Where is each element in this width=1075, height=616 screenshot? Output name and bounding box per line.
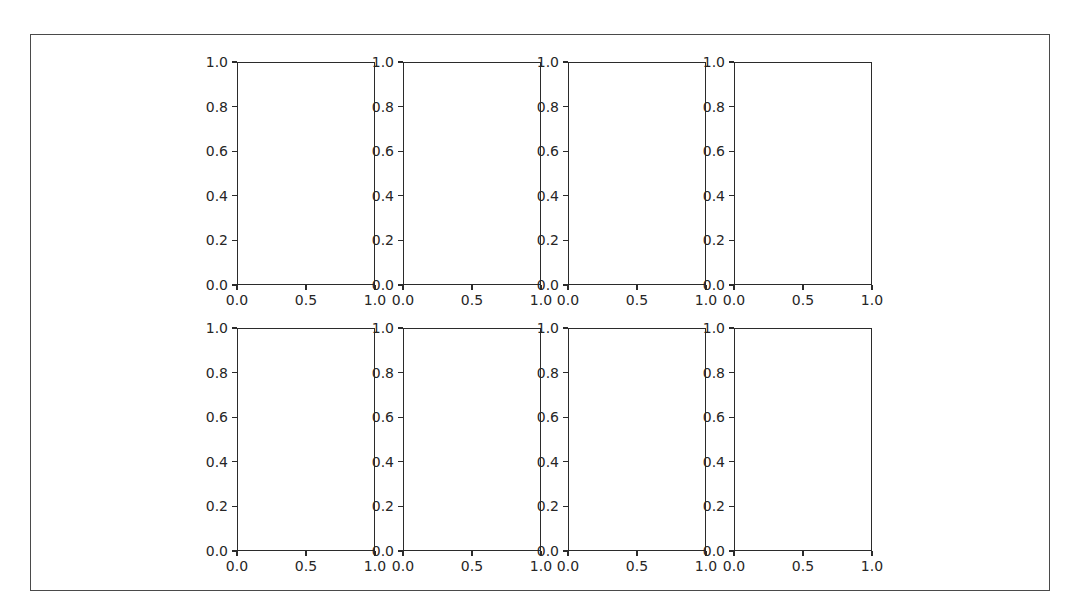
y-tick-mark — [398, 195, 403, 196]
subplot-axes — [237, 62, 375, 285]
y-tick-mark — [563, 327, 568, 328]
y-tick-label: 0.6 — [685, 144, 725, 158]
y-tick-label: 0.6 — [188, 144, 228, 158]
y-tick-label: 0.8 — [354, 100, 394, 114]
y-tick-label: 0.4 — [354, 189, 394, 203]
y-tick-mark — [232, 106, 237, 107]
y-tick-mark — [563, 151, 568, 152]
x-tick-mark — [567, 285, 568, 290]
x-tick-label: 0.0 — [217, 559, 257, 573]
x-tick-label: 0.0 — [548, 293, 588, 307]
y-tick-label: 0.8 — [519, 100, 559, 114]
y-tick-mark — [398, 506, 403, 507]
y-tick-label: 0.2 — [188, 499, 228, 513]
y-tick-mark — [232, 461, 237, 462]
y-tick-label: 1.0 — [685, 55, 725, 69]
x-tick-mark — [636, 285, 637, 290]
x-tick-label: 0.5 — [286, 293, 326, 307]
y-tick-label: 0.4 — [188, 455, 228, 469]
subplot-axes — [237, 328, 375, 551]
x-tick-mark — [402, 285, 403, 290]
x-tick-label: 1.0 — [852, 559, 892, 573]
x-tick-label: 0.0 — [383, 559, 423, 573]
y-tick-mark — [398, 417, 403, 418]
x-tick-mark — [733, 551, 734, 556]
x-tick-mark — [236, 551, 237, 556]
y-tick-mark — [729, 195, 734, 196]
y-tick-mark — [563, 61, 568, 62]
y-tick-label: 0.2 — [188, 233, 228, 247]
x-tick-mark — [402, 551, 403, 556]
x-tick-label: 0.0 — [714, 559, 754, 573]
y-tick-label: 0.0 — [685, 278, 725, 292]
y-tick-mark — [232, 61, 237, 62]
x-tick-label: 0.5 — [617, 293, 657, 307]
y-tick-mark — [398, 106, 403, 107]
y-tick-mark — [398, 240, 403, 241]
y-tick-label: 0.8 — [685, 100, 725, 114]
x-tick-mark — [236, 285, 237, 290]
y-tick-mark — [729, 506, 734, 507]
y-tick-label: 1.0 — [519, 321, 559, 335]
y-tick-label: 0.6 — [519, 144, 559, 158]
x-tick-label: 0.0 — [217, 293, 257, 307]
y-tick-mark — [232, 417, 237, 418]
y-tick-mark — [398, 327, 403, 328]
x-tick-label: 0.5 — [783, 293, 823, 307]
x-tick-mark — [471, 551, 472, 556]
subplot-axes — [403, 62, 541, 285]
y-tick-label: 0.2 — [354, 233, 394, 247]
y-tick-label: 0.0 — [354, 278, 394, 292]
y-tick-mark — [563, 417, 568, 418]
x-tick-mark — [871, 285, 872, 290]
y-tick-mark — [729, 327, 734, 328]
y-tick-mark — [563, 240, 568, 241]
y-tick-label: 0.2 — [685, 499, 725, 513]
y-tick-mark — [232, 372, 237, 373]
y-tick-label: 1.0 — [354, 321, 394, 335]
x-tick-label: 0.0 — [548, 559, 588, 573]
x-tick-label: 0.0 — [714, 293, 754, 307]
x-tick-mark — [305, 285, 306, 290]
y-tick-label: 0.2 — [685, 233, 725, 247]
y-tick-mark — [563, 106, 568, 107]
x-tick-mark — [871, 551, 872, 556]
y-tick-label: 0.4 — [519, 189, 559, 203]
y-tick-label: 0.0 — [188, 544, 228, 558]
subplot-axes — [403, 328, 541, 551]
y-tick-label: 1.0 — [188, 55, 228, 69]
y-tick-label: 0.2 — [519, 233, 559, 247]
y-tick-label: 0.6 — [519, 410, 559, 424]
y-tick-mark — [729, 61, 734, 62]
x-tick-label: 0.5 — [286, 559, 326, 573]
x-tick-label: 1.0 — [852, 293, 892, 307]
subplot-axes — [568, 328, 706, 551]
y-tick-label: 0.8 — [685, 366, 725, 380]
y-tick-mark — [232, 240, 237, 241]
y-tick-label: 0.8 — [188, 100, 228, 114]
y-tick-label: 0.4 — [685, 455, 725, 469]
x-tick-mark — [636, 551, 637, 556]
y-tick-label: 0.2 — [519, 499, 559, 513]
y-tick-label: 1.0 — [685, 321, 725, 335]
y-tick-mark — [729, 417, 734, 418]
y-tick-label: 0.4 — [519, 455, 559, 469]
y-tick-label: 0.8 — [519, 366, 559, 380]
y-tick-label: 1.0 — [354, 55, 394, 69]
y-tick-label: 0.4 — [685, 189, 725, 203]
y-tick-mark — [563, 461, 568, 462]
y-tick-mark — [398, 461, 403, 462]
y-tick-label: 0.6 — [354, 410, 394, 424]
y-tick-label: 0.4 — [354, 455, 394, 469]
y-tick-mark — [729, 240, 734, 241]
y-tick-mark — [563, 506, 568, 507]
x-tick-label: 0.0 — [383, 293, 423, 307]
y-tick-mark — [729, 151, 734, 152]
y-tick-label: 0.4 — [188, 189, 228, 203]
y-tick-label: 0.6 — [685, 410, 725, 424]
y-tick-label: 0.0 — [519, 544, 559, 558]
x-tick-label: 0.5 — [452, 293, 492, 307]
y-tick-label: 1.0 — [519, 55, 559, 69]
y-tick-mark — [398, 61, 403, 62]
x-tick-mark — [802, 551, 803, 556]
